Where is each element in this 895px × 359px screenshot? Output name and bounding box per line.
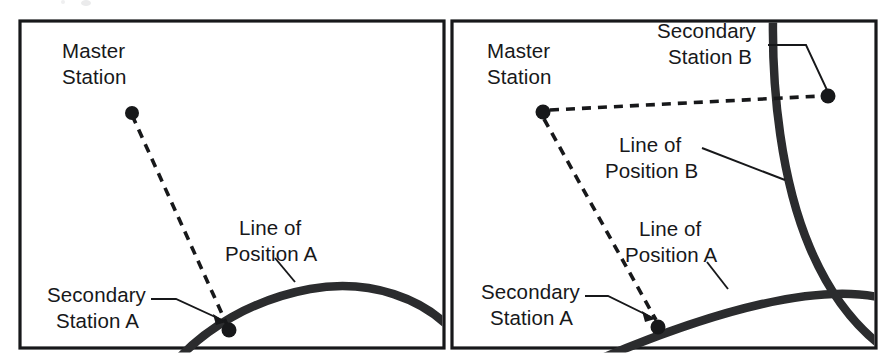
label-secondary-station-b-line2: Station B [668,45,752,68]
label-line-of-position-a-line1: Line of [639,217,701,240]
master-station-dot [125,106,139,120]
label-secondary-station-a-line2: Station A [490,306,573,329]
label-line-of-position-a-line2: Position A [225,242,317,265]
label-master-station-line2: Station [62,65,127,88]
label-secondary-station-a-line1: Secondary [47,283,147,306]
label-secondary-station-a-line2: Station A [56,309,139,332]
figure-root: Master Station Line of Position A Second… [0,0,895,359]
label-secondary-station-a-line1: Secondary [481,280,581,303]
secondary-station-a-dot [651,320,666,335]
master-station-dot [536,105,551,120]
label-line-of-position-b-line2: Position B [605,159,698,182]
secondary-station-a-dot [222,323,237,338]
label-master-station-line2: Station [487,65,552,88]
label-line-of-position-b-line1: Line of [619,133,681,156]
label-secondary-station-b-line1: Secondary [657,19,757,42]
secondary-station-b-dot [821,89,836,104]
navigation-lines-of-position-diagram: Master Station Line of Position A Second… [0,0,895,359]
label-master-station-line1: Master [62,39,125,62]
label-master-station-line1: Master [487,39,550,62]
label-line-of-position-a-line2: Position A [625,243,717,266]
label-line-of-position-a-line1: Line of [239,216,301,239]
